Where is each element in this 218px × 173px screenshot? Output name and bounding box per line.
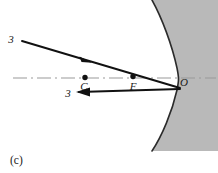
focal-point-label: F [129,80,137,92]
center-of-curvature-label: C [80,80,88,92]
ray-diagram-figure: 3 3 C F O (c) [0,0,218,173]
incident-ray-label: 3 [7,33,14,45]
figure-canvas: 3 3 C F O (c) [0,0,218,173]
focal-point-point [130,74,135,79]
vertex-label: O [180,76,188,88]
panel-label: (c) [10,154,23,167]
incident-ray-3-line [22,41,180,88]
incident-ray-3-arrowhead [80,57,93,63]
reflected-ray-label: 3 [64,87,71,99]
